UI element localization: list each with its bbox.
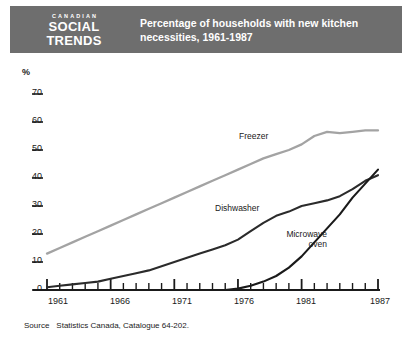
chart-svg: [10, 53, 402, 348]
source-text: Statistics Canada, Catalogue 64-202.: [56, 321, 189, 330]
header-banner: CANADIAN SOCIAL TRENDS Percentage of hou…: [10, 6, 402, 53]
axes-group: [32, 94, 380, 290]
source-label: Source: [24, 321, 49, 330]
logo-line-trends: TRENDS: [26, 34, 122, 48]
chart-title-line-1: Percentage of households with new kitche…: [140, 16, 358, 30]
chart-title-line-2: necessities, 1961-1987: [140, 30, 358, 44]
publication-logo: CANADIAN SOCIAL TRENDS: [10, 12, 122, 47]
series-line-microwave-oven: [47, 170, 378, 290]
data-lines-group: [47, 130, 378, 290]
figure-root: CANADIAN SOCIAL TRENDS Percentage of hou…: [0, 0, 412, 356]
chart-title: Percentage of households with new kitche…: [140, 16, 358, 44]
logo-line-social: SOCIAL: [26, 20, 122, 34]
plot-area: % 70 60 50 40 30 20 10 0 1961 1966 1971 …: [10, 53, 402, 348]
source-note: SourceStatistics Canada, Catalogue 64-20…: [24, 321, 189, 330]
series-line-freezer: [47, 130, 378, 253]
